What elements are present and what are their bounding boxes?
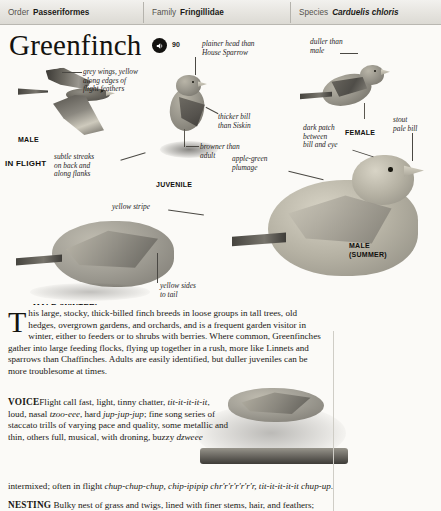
speaker-glyph [156, 42, 164, 50]
leader-yellow-sides [157, 253, 158, 283]
order-label: Order [8, 8, 29, 17]
family-label: Family [152, 8, 176, 17]
yellow-stripe-callout: yellow stripe [112, 203, 172, 212]
leader-thicker-bill [206, 107, 219, 114]
apple-green-callout: apple-green plumage [232, 155, 292, 172]
page-title: Greenfinch [9, 29, 141, 62]
voice-part1: Flight call fast, light, tinny chatter, [39, 397, 167, 407]
caption-juvenile: JUVENILE [156, 180, 192, 189]
grey-wings-callout: grey wings, yellow along edges of flight… [83, 68, 167, 94]
sidebar: FLIGHT: fast, bounding, undulating, with… [333, 0, 441, 511]
description-paragraph: his large, stocky, thick-billed finch br… [8, 308, 321, 376]
subtle-streaks-callout: subtle streaks on back and along flanks [54, 153, 124, 179]
leader-plainer-head [195, 57, 196, 75]
taxonomy-order: Order Passeriformes [0, 0, 143, 25]
voice-continuation: intermixed; often in flight chup-chup-ch… [8, 481, 368, 493]
leader-subtle-streaks [120, 152, 145, 161]
species-description: This large, stocky, thick-billed finch b… [8, 308, 324, 378]
leader-apple-green [288, 171, 323, 181]
taxonomy-family: Family Fringillidae [144, 0, 290, 25]
feeder-tray [200, 448, 348, 464]
lower-wing-shape [52, 95, 104, 135]
thicker-bill-callout: thicker bill than Siskin [218, 113, 280, 130]
order-value: Passeriformes [33, 8, 89, 17]
speaker-icon[interactable] [152, 38, 167, 53]
voice-part3: , hard [80, 409, 103, 419]
head-shape [176, 75, 201, 96]
plainer-head-callout: plainer head than House Sparrow [202, 40, 288, 57]
leader-yellow-stripe [168, 209, 204, 215]
voice-call-3: jup-jup-jup [103, 409, 144, 419]
nesting-text: Bulky nest of grass and twigs, lined wit… [54, 500, 315, 510]
caption-male: MALE [18, 135, 39, 144]
voice-call-1: tit-it-it-it-it [167, 397, 207, 407]
tail-shape [18, 87, 48, 96]
drop-cap: T [8, 308, 28, 334]
field-guide-page: Order Passeriformes Family Fringillidae … [0, 0, 441, 511]
leader-browner [186, 146, 199, 147]
leader-grey-wings [62, 72, 82, 73]
species-label: Species [299, 8, 328, 17]
voice-call-5: chup-chup-chup, chip-ipipip chr'r'r'r'r'… [104, 481, 330, 491]
caption-in-flight: IN FLIGHT [5, 159, 46, 168]
audio-track-number: 90 [172, 41, 180, 48]
voice-call-2: tzoo-eee [50, 409, 80, 419]
ground-shadow [30, 283, 150, 301]
nesting-section: NESTING Bulky nest of grass and twigs, l… [8, 500, 380, 511]
voice-heading: VOICE [8, 397, 39, 407]
voice-part5: intermixed; often in flight [8, 481, 104, 491]
nesting-heading: NESTING [8, 500, 51, 510]
yellow-sides-callout: yellow sides to tail [160, 282, 216, 299]
family-value: Fringillidae [180, 8, 224, 17]
